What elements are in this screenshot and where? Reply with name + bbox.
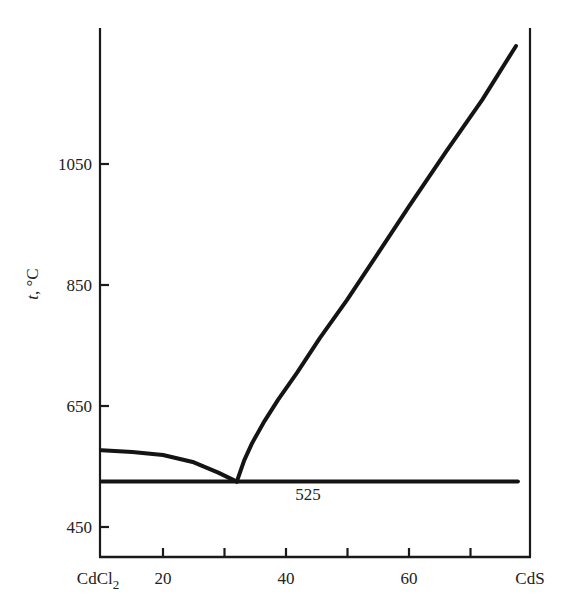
axis-labels: CdCl2CdSt, °C525: [23, 268, 545, 592]
curve-1: [237, 46, 516, 482]
subscript: 2: [113, 577, 120, 592]
eutectic-temperature-label: 525: [295, 485, 321, 504]
y-tick-label: 1050: [58, 155, 92, 174]
y-tick-label: 650: [67, 397, 93, 416]
x-end-label-cds: CdS: [515, 569, 544, 588]
y-axis-title: t, °C: [23, 268, 42, 299]
y-tick-label: 450: [67, 518, 93, 537]
x-end-label-cdcl2: CdCl2: [77, 569, 119, 592]
axis-ticks: 4506508501050204060: [58, 155, 471, 588]
axes-frame: [99, 28, 531, 557]
data-curves: [102, 46, 518, 482]
x-tick-label: 60: [401, 569, 418, 588]
phase-diagram: 4506508501050204060 CdCl2CdSt, °C525: [0, 0, 563, 609]
y-axis-title-unit: , °C: [23, 268, 42, 295]
y-tick-label: 850: [67, 276, 93, 295]
x-tick-label: 20: [155, 569, 172, 588]
x-tick-label: 40: [278, 569, 295, 588]
curve-0: [102, 450, 237, 481]
